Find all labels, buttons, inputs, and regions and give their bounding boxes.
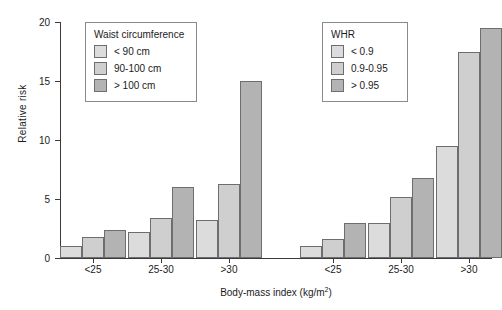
- legend-swatch-icon: [331, 79, 344, 92]
- y-axis-tick-label: 5: [44, 194, 50, 205]
- y-axis-title: Relative risk: [17, 44, 28, 184]
- bar: [390, 197, 412, 258]
- x-axis-title-main: Body-mass index (kg/m: [220, 287, 324, 298]
- legend-item-label: 90-100 cm: [114, 63, 161, 74]
- legend-swatch-icon: [94, 62, 107, 75]
- bar-chart-figure: 05101520 Relative risk Body-mass index (…: [0, 0, 502, 310]
- bar: [368, 223, 390, 258]
- legend-item-label: < 0.9: [351, 46, 374, 57]
- bar: [412, 178, 434, 258]
- x-axis-title-tail: ): [329, 287, 332, 298]
- bar: [60, 246, 82, 258]
- legend-item: 90-100 cm: [94, 61, 188, 75]
- bar: [344, 223, 366, 258]
- y-axis-tick-label: 10: [39, 135, 50, 146]
- legend-swatch-icon: [94, 79, 107, 92]
- legend-swatch-icon: [94, 45, 107, 58]
- legend-title: Waist circumference: [94, 29, 188, 40]
- legend-item-label: < 90 cm: [114, 46, 150, 57]
- x-axis-tick-mark: [161, 259, 162, 263]
- legend-item-label: > 100 cm: [114, 80, 155, 91]
- bar: [128, 232, 150, 258]
- x-axis-title: Body-mass index (kg/m2): [60, 286, 492, 298]
- x-axis-tick-label: 25-30: [371, 264, 431, 275]
- legend-item: > 100 cm: [94, 78, 188, 92]
- bar: [300, 246, 322, 258]
- x-axis-tick-mark: [469, 259, 470, 263]
- legend-swatch-icon: [331, 45, 344, 58]
- bar: [240, 81, 262, 258]
- x-axis-line: [60, 258, 492, 259]
- x-axis-tick-mark: [401, 259, 402, 263]
- bar: [196, 220, 218, 258]
- x-axis-tick-label: >30: [439, 264, 499, 275]
- x-axis-tick-label: <25: [303, 264, 363, 275]
- legend-item: < 0.9: [331, 44, 399, 58]
- bar: [150, 218, 172, 258]
- legend-item-label: > 0.95: [351, 80, 379, 91]
- bar: [436, 146, 458, 258]
- legend-item: < 90 cm: [94, 44, 188, 58]
- x-axis-tick-mark: [93, 259, 94, 263]
- legend-waist-circumference: Waist circumference < 90 cm 90-100 cm > …: [85, 22, 197, 102]
- bar: [104, 230, 126, 258]
- legend-item-label: 0.9-0.95: [351, 63, 388, 74]
- legend-swatch-icon: [331, 62, 344, 75]
- bar: [172, 187, 194, 258]
- bar: [458, 52, 480, 259]
- x-axis-tick-label: <25: [63, 264, 123, 275]
- bar: [322, 239, 344, 258]
- y-axis-tick-label: 0: [44, 253, 50, 264]
- legend-item: > 0.95: [331, 78, 399, 92]
- legend-title: WHR: [331, 29, 399, 40]
- bar: [480, 28, 502, 258]
- x-axis-tick-mark: [333, 259, 334, 263]
- bar: [82, 237, 104, 258]
- legend-item: 0.9-0.95: [331, 61, 399, 75]
- legend-whr: WHR < 0.9 0.9-0.95 > 0.95: [322, 22, 408, 102]
- y-axis-tick-label: 15: [39, 76, 50, 87]
- bar: [218, 184, 240, 258]
- y-axis-tick-label: 20: [39, 17, 50, 28]
- x-axis-tick-mark: [229, 259, 230, 263]
- x-axis-tick-label: 25-30: [131, 264, 191, 275]
- x-axis-tick-label: >30: [199, 264, 259, 275]
